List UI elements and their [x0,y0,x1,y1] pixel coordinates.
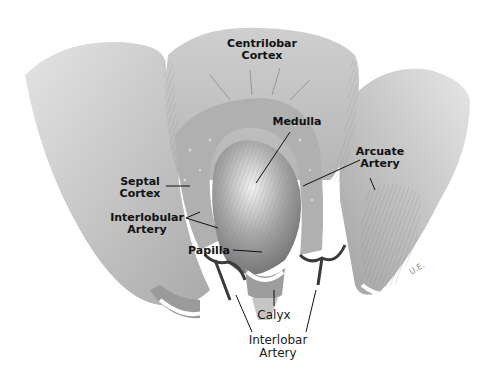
label-interlobular-artery: Interlobular Artery [108,212,186,236]
label-centrilobar-cortex: Centrilobar Cortex [214,38,310,62]
label-interlobar-artery: Interlobar Artery [240,334,316,360]
label-papilla: Papilla [186,245,232,257]
right-lobe [340,69,470,295]
label-calyx: Calyx [254,309,294,322]
label-arcuate-artery: Arcuate Artery [352,146,408,170]
label-septal-cortex: Septal Cortex [116,176,164,200]
kidney-lobe-illustration: Centrilobar Cortex Medulla Arcuate Arter… [0,0,486,370]
label-medulla: Medulla [270,116,324,128]
